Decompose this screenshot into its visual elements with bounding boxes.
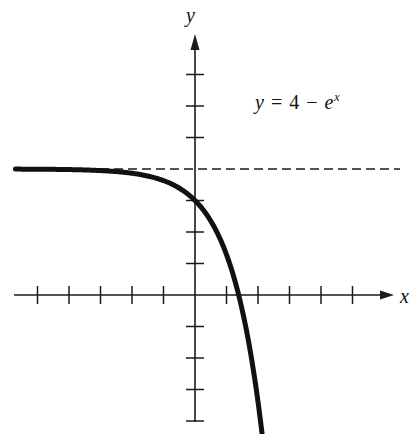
eq-const: 4	[289, 91, 300, 113]
equation-annotation: y = 4 − ex	[255, 90, 341, 114]
y-axis-label: y	[186, 4, 195, 27]
y-axis-arrow-icon	[191, 34, 200, 50]
eq-base: e	[324, 91, 334, 113]
plot-area	[0, 0, 418, 434]
x-axis-arrow-icon	[380, 291, 394, 300]
eq-exponent: x	[334, 90, 340, 104]
eq-minus: −	[306, 91, 318, 113]
eq-equals: =	[271, 91, 283, 113]
x-axis-label: x	[400, 285, 409, 308]
function-curve	[15, 169, 262, 434]
eq-lhs: y	[255, 91, 265, 113]
